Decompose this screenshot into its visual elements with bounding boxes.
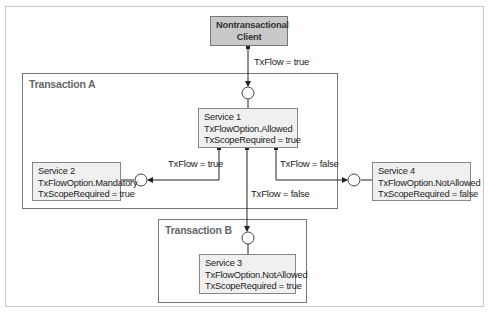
service4-endpoint-icon [348, 174, 360, 186]
service4-node: Service 4 TxFlowOption.NotAllowed TxScop… [372, 162, 471, 201]
service3-option: TxFlowOption.NotAllowed [205, 270, 290, 282]
service1-endpoint-icon [242, 87, 254, 99]
client-label-line2: Client [216, 32, 282, 44]
service3-endpoint-icon [242, 232, 254, 244]
edge-label-client-to-service1: TxFlow = true [254, 56, 309, 67]
service2-node: Service 2 TxFlowOption.Mandatory TxScope… [32, 162, 121, 201]
service1-name: Service 1 [204, 112, 292, 124]
service3-scope: TxScopeRequired = true [205, 281, 290, 293]
service2-scope: TxScopeRequired = true [38, 189, 115, 201]
edge-label-service1-to-service2: TxFlow = true [168, 158, 223, 169]
service4-scope: TxScopeRequired = false [378, 189, 465, 201]
edge-label-service1-to-service4: TxFlow = false [280, 158, 339, 169]
edge-label-service1-to-service3: TxFlow = false [251, 188, 310, 199]
nontransactional-client-node: Nontransactional Client [210, 16, 288, 46]
service3-name: Service 3 [205, 258, 290, 270]
service4-name: Service 4 [378, 166, 465, 178]
service1-option: TxFlowOption.Allowed [204, 124, 292, 136]
service1-scope: TxScopeRequired = true [204, 135, 292, 147]
service2-option: TxFlowOption.Mandatory [38, 178, 115, 190]
service2-name: Service 2 [38, 166, 115, 178]
service4-option: TxFlowOption.NotAllowed [378, 178, 465, 190]
client-label-line1: Nontransactional [216, 20, 282, 32]
service3-node: Service 3 TxFlowOption.NotAllowed TxScop… [199, 254, 296, 294]
service1-node: Service 1 TxFlowOption.Allowed TxScopeRe… [198, 108, 298, 148]
